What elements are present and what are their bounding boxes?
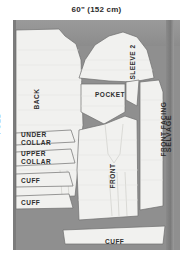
piece-under-collar: [16, 130, 75, 145]
piece-upper-collar: [16, 149, 75, 166]
fold-edge-label: FOLD: [0, 113, 1, 135]
piece-pocket: [81, 84, 125, 124]
piece-cuff-2: [16, 194, 73, 209]
piece-sleeve-2: [79, 32, 154, 82]
fabric-width-caption: 60" (152 cm): [0, 5, 193, 14]
piece-facing-wedge: [126, 80, 139, 106]
piece-front-facing: [140, 80, 163, 210]
pattern-pieces-svg: [13, 20, 180, 250]
cutting-layout-diagram: 60" (152 cm) FOLD SELVAGE: [0, 0, 193, 262]
piece-cuff-1: [16, 172, 73, 187]
piece-front: [77, 116, 138, 220]
piece-cuff-3: [63, 226, 165, 244]
